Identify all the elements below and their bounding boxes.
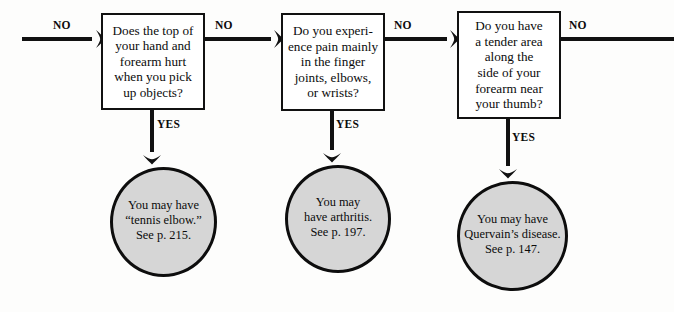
decision-box-text: Does the top of your hand and forearm hu… <box>110 23 197 101</box>
decision-box-finger-joint-pain[interactable]: Do you experi- ence pain mainly in the f… <box>281 13 385 111</box>
decision-box-text: Do you have a tender area along the side… <box>472 18 546 112</box>
arrowhead-yes-3 <box>499 169 517 179</box>
arrowhead-yes-1 <box>143 155 161 165</box>
decision-box-hand-forearm-hurt[interactable]: Does the top of your hand and forearm hu… <box>101 13 205 110</box>
edge-label-no-entry: NO <box>53 19 71 31</box>
outcome-circle-tennis-elbow[interactable]: You may have “tennis elbow.” See p. 215. <box>110 167 217 277</box>
outcome-circle-text: You may have arthritis. See p. 197. <box>304 195 372 244</box>
edge-label-yes-3: YES <box>512 131 535 143</box>
decision-box-tender-area-forearm[interactable]: Do you have a tender area along the side… <box>457 11 561 119</box>
edge-label-no-2: NO <box>394 19 412 31</box>
edge-label-no-3: NO <box>569 19 587 31</box>
outcome-circle-quervains-disease[interactable]: You may have Quervain’s disease. See p. … <box>457 181 568 291</box>
edge-label-no-1: NO <box>215 19 233 31</box>
outcome-circle-arthritis[interactable]: You may have arthritis. See p. 197. <box>285 165 391 273</box>
edge-label-yes-2: YES <box>336 118 359 130</box>
flowchart-page: Does the top of your hand and forearm hu… <box>0 0 674 312</box>
decision-box-text: Do you experi- ence pain mainly in the f… <box>285 23 381 101</box>
outcome-circle-text: You may have “tennis elbow.” See p. 215. <box>125 198 201 247</box>
outcome-circle-text: You may have Quervain’s disease. See p. … <box>464 212 560 261</box>
edge-label-yes-1: YES <box>157 118 180 130</box>
arrowhead-yes-2 <box>323 153 341 163</box>
